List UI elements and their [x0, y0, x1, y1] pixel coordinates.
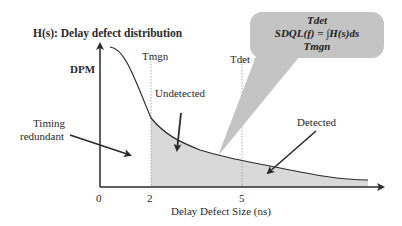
x-tick-0: 0 — [96, 192, 102, 205]
callout-text: Tdet SDQL(f) = ∫H(s)ds Tmgn — [250, 14, 384, 53]
x-tick-5: 5 — [239, 192, 245, 205]
detected-label: Detected — [297, 116, 336, 129]
timing-redundant-line2: redundant — [20, 130, 64, 143]
callout-tail — [218, 56, 300, 156]
tmgn-label: Tmgn — [142, 50, 168, 63]
sdql-formula: SDQL(f) = ∫H(s)ds — [250, 27, 384, 40]
timing-redundant-line1: Timing — [33, 117, 65, 130]
undetected-label: Undetected — [155, 87, 205, 100]
tdet-label: Tdet — [230, 53, 250, 66]
integral-lower-limit: Tmgn — [250, 40, 384, 53]
x-tick-2: 2 — [147, 192, 153, 205]
detected-arrow — [268, 131, 316, 173]
chart-title: H(s): Delay defect distribution — [33, 27, 182, 39]
x-axis-label: Delay Defect Size (ns) — [171, 205, 271, 218]
y-axis-label: DPM — [70, 63, 95, 76]
integral-upper-limit: Tdet — [250, 14, 384, 27]
